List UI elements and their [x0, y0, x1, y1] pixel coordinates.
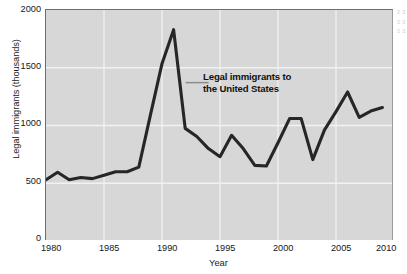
plot-area: [45, 9, 393, 240]
x-axis-tick-2005: 2005: [331, 243, 351, 253]
x-axis-tick-2000: 2000: [273, 243, 293, 253]
data-series-line: [46, 30, 382, 180]
x-axis-tick-1995: 1995: [215, 243, 235, 253]
x-axis-tick-1990: 1990: [157, 243, 177, 253]
y-axis-tick-0: 0: [7, 234, 41, 243]
series-annotation: Legal immigrants to the United States: [203, 71, 291, 95]
y-axis-title: Legal immigrants (thousands): [11, 9, 21, 189]
x-axis-tick-1985: 1985: [99, 243, 119, 253]
chart-plot-svg: [46, 10, 393, 240]
x-axis-title: Year: [44, 258, 393, 268]
cropped-edge-text: ≡ ≡ ≡ ≡ ≡ ≡: [397, 8, 406, 78]
x-axis-tick-2010: 2010: [376, 243, 396, 253]
annotation-line-1: Legal immigrants to: [203, 71, 291, 83]
chart-figure: 2000 1500 1000 500 0 Legal immigrants (t…: [0, 0, 407, 274]
annotation-line-2: the United States: [203, 83, 291, 95]
x-axis-tick-1980: 1980: [41, 243, 61, 253]
